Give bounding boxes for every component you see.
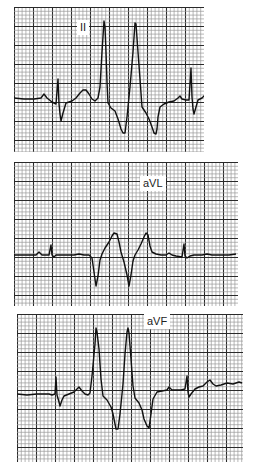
ecg-strip-lead-ii: II	[14, 7, 204, 152]
lead-label: II	[77, 20, 89, 35]
ecg-strip-lead-avf: aVF	[17, 314, 243, 462]
ecg-strip-lead-avl: aVL	[14, 162, 238, 306]
ecg-grid-and-trace	[17, 314, 243, 462]
ecg-grid-and-trace	[14, 7, 204, 152]
lead-label: aVL	[140, 176, 166, 191]
lead-label: aVF	[144, 314, 170, 329]
ecg-grid-and-trace	[14, 162, 238, 306]
